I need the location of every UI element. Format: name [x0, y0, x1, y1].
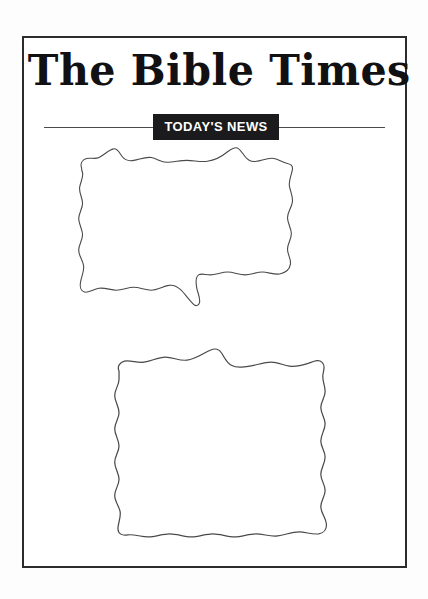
article-block-1[interactable] — [70, 147, 302, 315]
masthead: The Bible Times — [24, 46, 405, 96]
page-frame-border: The Bible Times TODAY'S NEWS — [22, 36, 407, 568]
article-block-2[interactable] — [105, 349, 337, 546]
todays-news-banner-row: TODAY'S NEWS — [24, 115, 405, 139]
banner-rule-right — [279, 127, 385, 128]
status-badge: TODAY'S NEWS — [153, 114, 278, 140]
article-block-1-text — [88, 161, 284, 301]
article-block-2-text — [123, 363, 319, 532]
newspaper-page: The Bible Times TODAY'S NEWS — [0, 0, 428, 599]
banner-rule-left — [44, 127, 153, 128]
page-title: The Bible Times — [28, 46, 401, 96]
